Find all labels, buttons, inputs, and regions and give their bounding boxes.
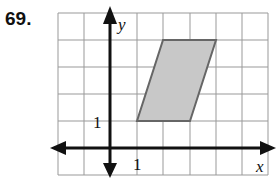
y-axis-arrow-up-icon (103, 6, 117, 24)
y-axis-arrow-down-icon (103, 163, 117, 178)
y-axis-label: y (116, 15, 126, 34)
y-tick-label: 1 (93, 113, 102, 132)
x-tick-label: 1 (133, 155, 142, 174)
x-axis-label: x (255, 157, 264, 176)
parallelogram (137, 40, 216, 121)
coordinate-graph: y x 1 1 (0, 0, 276, 181)
